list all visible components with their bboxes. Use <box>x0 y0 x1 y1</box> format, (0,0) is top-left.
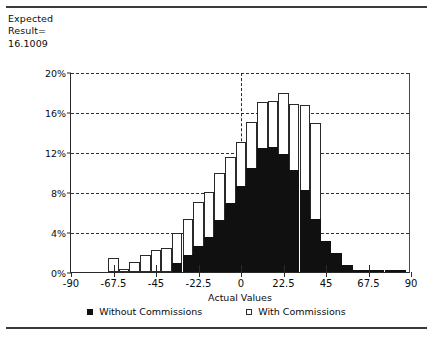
x-tick-mark <box>241 272 242 277</box>
chart-area: 0%4%8%12%16%20% -90-67.5-45-22.5022.5456… <box>0 0 433 337</box>
x-tick-label: 0 <box>238 278 244 289</box>
bar-without-commissions <box>183 255 194 272</box>
y-tick-label: 4% <box>51 228 66 239</box>
bar-with-commissions <box>119 269 130 272</box>
y-tick-label: 16% <box>45 108 66 119</box>
y-tick-mark <box>67 193 71 194</box>
bar-without-commissions <box>331 253 342 272</box>
legend-label: Without Commissions <box>99 306 202 317</box>
x-tick-mark <box>199 272 200 277</box>
bar-without-commissions <box>300 190 311 272</box>
x-tick-inner <box>369 265 370 272</box>
bar-without-commissions <box>395 270 406 272</box>
x-tick-inner <box>156 265 157 272</box>
plot-region: 0%4%8%12%16%20% -90-67.5-45-22.5022.5456… <box>70 73 410 273</box>
y-tick-mark <box>67 113 71 114</box>
x-tick-label: 67.5 <box>357 278 379 289</box>
x-tick-mark <box>284 272 285 277</box>
bar-without-commissions <box>204 237 215 272</box>
bar-without-commissions <box>246 168 257 272</box>
y-tick-label: 0% <box>51 268 66 279</box>
x-tick-mark <box>114 272 115 277</box>
legend-item: Without Commissions <box>87 306 202 317</box>
x-tick-mark <box>156 272 157 277</box>
bar-without-commissions <box>268 147 279 272</box>
chart-legend: Without CommissionsWith Commissions <box>0 306 433 317</box>
x-tick-label: 90 <box>405 278 418 289</box>
bar-without-commissions <box>310 219 321 272</box>
bar-without-commissions <box>353 270 364 273</box>
y-tick-label: 12% <box>45 148 66 159</box>
x-tick-inner <box>199 265 200 272</box>
x-tick-mark <box>369 272 370 277</box>
bar-without-commissions <box>278 154 289 272</box>
x-tick-label: 45 <box>320 278 333 289</box>
x-tick-label: 22.5 <box>272 278 294 289</box>
y-tick-mark <box>67 73 71 74</box>
x-tick-label: -67.5 <box>101 278 127 289</box>
bar-without-commissions <box>374 270 385 272</box>
x-tick-mark <box>71 272 72 277</box>
histogram-bars <box>71 73 409 272</box>
x-tick-label: -22.5 <box>186 278 212 289</box>
x-tick-mark <box>326 272 327 277</box>
bar-without-commissions <box>385 270 396 272</box>
legend-label: With Commissions <box>258 306 346 317</box>
y-tick-mark <box>67 233 71 234</box>
bar-without-commissions <box>342 265 353 272</box>
bar-with-commissions <box>129 262 140 272</box>
bar-with-commissions <box>161 248 172 272</box>
legend-swatch-open <box>246 309 252 315</box>
x-tick-label: -90 <box>63 278 79 289</box>
bar-without-commissions <box>172 263 183 272</box>
bar-without-commissions <box>236 186 247 272</box>
legend-item: With Commissions <box>246 306 346 317</box>
bar-with-commissions <box>140 255 151 272</box>
bar-without-commissions <box>257 148 268 272</box>
x-tick-inner <box>114 265 115 272</box>
x-tick-label: -45 <box>148 278 164 289</box>
x-tick-mark <box>411 272 412 277</box>
bar-without-commissions <box>289 170 300 272</box>
x-tick-inner <box>241 265 242 272</box>
y-tick-label: 8% <box>51 188 66 199</box>
y-tick-label: 20% <box>45 68 66 79</box>
x-tick-inner <box>284 265 285 272</box>
x-axis-title: Actual Values <box>208 292 272 303</box>
bar-without-commissions <box>214 220 225 272</box>
x-tick-inner <box>326 265 327 272</box>
y-tick-mark <box>67 153 71 154</box>
bar-without-commissions <box>225 203 236 272</box>
legend-swatch-filled <box>87 309 93 315</box>
